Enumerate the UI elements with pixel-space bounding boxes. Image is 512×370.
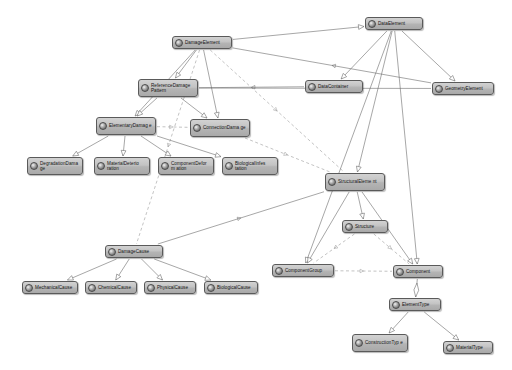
edge-referenceDamagePattern-to-elementaryDamage bbox=[137, 98, 157, 116]
class-stereotype-icon bbox=[275, 267, 283, 275]
class-stereotype-icon bbox=[207, 284, 215, 292]
class-node-physicalCause[interactable]: PhysicalCause bbox=[144, 281, 196, 294]
class-stereotype-icon bbox=[97, 162, 105, 170]
edge-structure-to-component bbox=[374, 234, 409, 264]
class-node-label: MaterialType bbox=[456, 345, 489, 350]
edge-dataElement-to-geometryElement bbox=[402, 31, 455, 81]
edge-elementaryDamage-to-connectionDamage bbox=[157, 125, 189, 129]
class-stereotype-icon bbox=[225, 162, 233, 170]
edge-elementType-to-materialType bbox=[424, 312, 459, 340]
class-node-referenceDamagePattern[interactable]: ReferenceDamage Pattern bbox=[138, 79, 198, 97]
edge-damageElement-to-connectionDamage bbox=[204, 50, 220, 118]
class-node-structure[interactable]: Structure bbox=[342, 220, 388, 233]
class-node-damageCause[interactable]: DamageCause bbox=[105, 245, 163, 258]
edge-dataContainer-to-referenceDamagePattern bbox=[199, 85, 304, 89]
edge-elementaryDamage-to-componentDeformation bbox=[141, 136, 171, 156]
class-stereotype-icon bbox=[30, 162, 38, 170]
class-stereotype-icon bbox=[308, 83, 316, 91]
class-node-elementType[interactable]: ElementType bbox=[389, 298, 441, 311]
class-node-dataElement[interactable]: DataElement bbox=[365, 17, 423, 30]
diagram-edges-layer bbox=[0, 0, 512, 370]
class-node-label: ChemicalCause bbox=[98, 285, 133, 290]
class-stereotype-icon bbox=[355, 339, 363, 347]
class-node-degradationDamage[interactable]: DegradationDama ge bbox=[27, 157, 83, 175]
edge-damageCause-to-biologicalCause bbox=[154, 259, 211, 280]
class-node-label: ConstructionTyp e bbox=[365, 340, 404, 345]
class-node-label: BiologicalInfes tation bbox=[235, 161, 274, 172]
edge-elementaryDamage-to-degradationDamage bbox=[73, 136, 109, 156]
class-node-constructionType[interactable]: ConstructionTyp e bbox=[352, 334, 408, 352]
edge-structure-to-componentGroup bbox=[314, 234, 355, 263]
class-node-materialDeterioration[interactable]: MaterialDeterio ration bbox=[94, 157, 150, 175]
edge-damageElement-to-dataElement bbox=[233, 25, 364, 40]
edge-elementaryDamage-to-materialDeterioration bbox=[121, 136, 126, 156]
edge-component-to-elementType bbox=[414, 279, 419, 297]
class-stereotype-icon bbox=[392, 301, 400, 309]
class-stereotype-icon bbox=[396, 268, 404, 276]
class-stereotype-icon bbox=[328, 178, 336, 186]
edge-damageElement-to-referenceDamagePattern bbox=[175, 50, 196, 78]
edge-dataElement-to-component bbox=[395, 31, 419, 264]
class-stereotype-icon bbox=[161, 162, 169, 170]
edge-structuralElement-to-structure bbox=[357, 192, 364, 219]
edge-geometryElement-to-damageElement bbox=[233, 48, 431, 83]
class-node-label: ComponentGroup bbox=[285, 268, 330, 273]
class-node-label: MechanicalCause bbox=[35, 285, 74, 290]
class-stereotype-icon bbox=[345, 223, 353, 231]
edge-componentGroup-to-component bbox=[335, 269, 392, 273]
class-node-label: ReferenceDamage Pattern bbox=[151, 83, 194, 94]
edge-damageCause-to-structuralElement bbox=[158, 192, 324, 244]
class-node-label: DegradationDama ge bbox=[40, 161, 79, 172]
class-node-connectionDamage[interactable]: ConnectionDama ge bbox=[190, 119, 250, 137]
class-node-label: DataElement bbox=[378, 21, 419, 26]
class-node-biologicalCause[interactable]: BiologicalCause bbox=[204, 281, 258, 294]
class-stereotype-icon bbox=[25, 284, 33, 292]
class-node-label: DamageCause bbox=[118, 249, 159, 254]
class-node-label: DataContainer bbox=[318, 84, 359, 89]
class-node-label: ConnectionDama ge bbox=[203, 125, 246, 130]
edge-damageElement-to-structuralElement bbox=[210, 50, 344, 172]
class-node-biologicalInfestation[interactable]: BiologicalInfes tation bbox=[222, 157, 278, 175]
class-stereotype-icon bbox=[446, 344, 454, 352]
class-stereotype-icon bbox=[99, 122, 107, 130]
class-node-geometryElement[interactable]: GeometryElement bbox=[432, 82, 494, 95]
edge-elementType-to-constructionType bbox=[389, 312, 408, 333]
class-stereotype-icon bbox=[108, 248, 116, 256]
edge-dataElement-to-dataContainer bbox=[341, 31, 387, 79]
class-stereotype-icon bbox=[175, 39, 183, 47]
class-stereotype-icon bbox=[88, 284, 96, 292]
class-stereotype-icon bbox=[141, 84, 149, 92]
edge-dataElement-to-structuralElement bbox=[356, 31, 392, 172]
class-stereotype-icon bbox=[147, 284, 155, 292]
class-node-chemicalCause[interactable]: ChemicalCause bbox=[85, 281, 137, 294]
class-node-mechanicalCause[interactable]: MechanicalCause bbox=[22, 281, 78, 294]
class-node-label: StructuralEleme nt bbox=[338, 179, 381, 184]
class-node-componentGroup[interactable]: ComponentGroup bbox=[272, 264, 334, 277]
class-node-label: GeometryElement bbox=[445, 86, 490, 91]
class-node-componentDeformation[interactable]: ComponentDeform ation bbox=[158, 157, 214, 175]
class-node-label: Structure bbox=[355, 224, 384, 229]
class-stereotype-icon bbox=[435, 85, 443, 93]
edge-damageCause-to-mechanicalCause bbox=[68, 259, 117, 280]
class-stereotype-icon bbox=[368, 20, 376, 28]
class-node-label: ComponentDeform ation bbox=[171, 161, 210, 172]
class-node-damageElement[interactable]: DamageElement bbox=[172, 36, 232, 49]
class-node-materialType[interactable]: MaterialType bbox=[443, 341, 493, 354]
edge-elementaryDamage-to-biologicalInfestation bbox=[157, 136, 221, 157]
edge-damageCause-to-physicalCause bbox=[142, 259, 163, 280]
class-node-elementaryDamage[interactable]: ElementaryDamag e bbox=[96, 117, 156, 135]
class-node-label: DamageElement bbox=[185, 40, 228, 45]
class-node-structuralElement[interactable]: StructuralEleme nt bbox=[325, 173, 385, 191]
class-node-label: ElementaryDamag e bbox=[109, 123, 152, 128]
class-stereotype-icon bbox=[193, 124, 201, 132]
class-node-component[interactable]: Component bbox=[393, 265, 443, 278]
edge-referenceDamagePattern-to-connectionDamage bbox=[181, 98, 207, 118]
diagram-canvas: DamageElementDataElementReferenceDamage … bbox=[0, 0, 512, 370]
class-node-label: MaterialDeterio ration bbox=[107, 161, 146, 172]
edge-damageCause-to-chemicalCause bbox=[116, 259, 129, 280]
class-node-dataContainer[interactable]: DataContainer bbox=[305, 80, 363, 93]
class-node-label: PhysicalCause bbox=[157, 285, 192, 290]
class-node-label: Component bbox=[406, 269, 439, 274]
class-node-label: BiologicalCause bbox=[217, 285, 254, 290]
class-node-label: ElementType bbox=[402, 302, 437, 307]
